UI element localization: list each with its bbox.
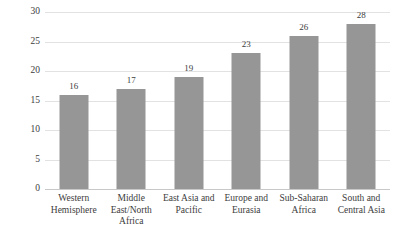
- category-label-line: Western: [45, 193, 103, 205]
- category-label-line: Africa: [103, 216, 161, 228]
- category-label-line: Sub-Saharan: [275, 193, 333, 205]
- y-axis-tick-label: 5: [4, 155, 40, 165]
- bar: [232, 53, 261, 189]
- y-axis-tick-label: 0: [4, 184, 40, 194]
- bar-slot: 19: [160, 12, 218, 189]
- bar-slot: 23: [218, 12, 276, 189]
- category-label-line: Central Asia: [333, 205, 391, 217]
- y-axis-tick-label: 15: [4, 96, 40, 106]
- bar-slot: 26: [275, 12, 333, 189]
- bar-value-label: 16: [69, 82, 78, 91]
- bar-chart: 051015202530 161719232628 WesternHemisph…: [0, 0, 397, 238]
- x-axis-category-label: Sub-SaharanAfrica: [275, 193, 333, 216]
- bar-slot: 17: [103, 12, 161, 189]
- bar: [289, 36, 318, 189]
- category-label-line: Africa: [275, 205, 333, 217]
- category-label-line: East/North: [103, 205, 161, 217]
- x-axis-category-label: East Asia andPacific: [160, 193, 218, 216]
- category-label-line: Europe and: [218, 193, 276, 205]
- x-axis-category-label: MiddleEast/NorthAfrica: [103, 193, 161, 228]
- y-axis-tick-label: 10: [4, 125, 40, 135]
- bar: [174, 77, 203, 189]
- x-axis-category-labels: WesternHemisphereMiddleEast/NorthAfricaE…: [45, 193, 390, 238]
- x-axis-category-label: WesternHemisphere: [45, 193, 103, 216]
- bar-slot: 28: [333, 12, 391, 189]
- y-axis-tick-label: 20: [4, 66, 40, 76]
- bars-layer: 161719232628: [45, 12, 390, 189]
- bar-slot: 16: [45, 12, 103, 189]
- category-label-line: South and: [333, 193, 391, 205]
- bar: [347, 24, 376, 189]
- y-axis-tick-label: 25: [4, 37, 40, 47]
- bar: [59, 95, 88, 189]
- bar-value-label: 23: [242, 40, 251, 49]
- bar-value-label: 17: [127, 76, 136, 85]
- category-label-line: Eurasia: [218, 205, 276, 217]
- bar-value-label: 28: [357, 11, 366, 20]
- bar: [117, 89, 146, 189]
- category-label-line: Pacific: [160, 205, 218, 217]
- x-axis-baseline: [45, 189, 390, 190]
- bar-value-label: 19: [184, 64, 193, 73]
- category-label-line: East Asia and: [160, 193, 218, 205]
- x-axis-category-label: South andCentral Asia: [333, 193, 391, 216]
- bar-value-label: 26: [299, 23, 308, 32]
- y-axis-tick-label: 30: [4, 7, 40, 17]
- category-label-line: Hemisphere: [45, 205, 103, 217]
- category-label-line: Middle: [103, 193, 161, 205]
- y-axis-tick-labels: 051015202530: [0, 12, 40, 189]
- x-axis-category-label: Europe andEurasia: [218, 193, 276, 216]
